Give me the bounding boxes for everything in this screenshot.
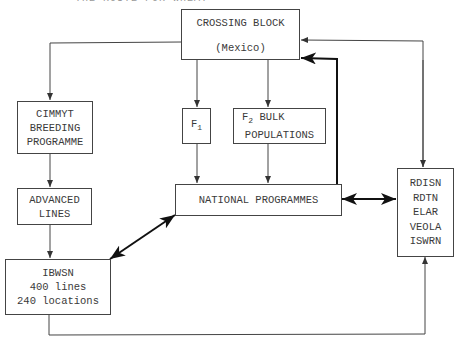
national-programmes-label: NATIONAL PROGRAMMES — [199, 193, 319, 207]
national-programmes-node: NATIONAL PROGRAMMES — [175, 184, 342, 216]
ibwsn-line-2: 400 lines — [30, 280, 87, 294]
f2-bulk-node: F2 BULK POPULATIONS — [233, 108, 326, 144]
edge-ibwsn-np — [110, 215, 175, 259]
advanced-lines-line-2: LINES — [39, 207, 71, 221]
crossing-block-node: CROSSING BLOCK (Mexico) — [181, 9, 300, 60]
f2-bulk-text: BULK — [253, 111, 285, 123]
f2-line-2: POPULATIONS — [245, 128, 314, 142]
cimmyt-line-1: CIMMYT — [36, 107, 74, 121]
nursery-rdisn: RDISN — [410, 176, 442, 191]
f1-node: F1 — [182, 108, 211, 144]
nursery-rdtn: RDTN — [413, 191, 438, 206]
f1-label: F1 — [191, 117, 202, 135]
crossing-block-title: CROSSING BLOCK — [196, 16, 284, 30]
edge-crossing-to-cimmyt — [50, 42, 181, 100]
cimmyt-line-2: BREEDING — [30, 121, 80, 135]
ibwsn-line-3: 240 locations — [17, 294, 99, 308]
cimmyt-line-3: PROGRAMME — [27, 135, 84, 149]
nurseries-node: RDISN RDTN ELAR VEOLA ISWRN — [397, 168, 454, 257]
cimmyt-node: CIMMYT BREEDING PROGRAMME — [17, 101, 93, 154]
crossing-block-subtitle: (Mexico) — [215, 41, 265, 55]
nursery-veola: VEOLA — [410, 220, 442, 235]
advanced-lines-node: ADVANCED LINES — [17, 188, 92, 225]
nursery-elar: ELAR — [413, 205, 438, 220]
ibwsn-line-1: IBWSN — [42, 266, 74, 280]
advanced-lines-line-1: ADVANCED — [29, 193, 79, 207]
nursery-iswrn: ISWRN — [410, 234, 442, 249]
ibwsn-node: IBWSN 400 lines 240 locations — [5, 259, 111, 315]
f2-line-1: F2 BULK — [234, 110, 285, 128]
f1-subscript: 1 — [197, 123, 202, 132]
